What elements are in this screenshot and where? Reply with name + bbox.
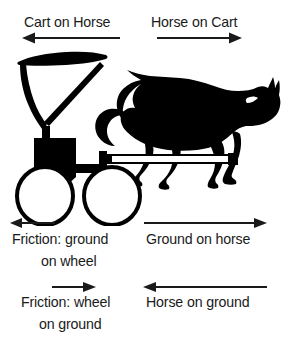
label-ground-on-horse: Ground on horse xyxy=(146,231,250,247)
force-pair-diagram: Cart on Horse Horse on Cart xyxy=(0,0,288,349)
friction-ground-on-wheel-arrow xyxy=(10,216,56,230)
ground-on-horse-arrow xyxy=(143,216,267,230)
horse-tail xyxy=(95,109,128,146)
label-friction-ground-on-wheel-line2: on wheel xyxy=(41,253,97,269)
label-friction-wheel-on-ground-line1: Friction: wheel xyxy=(21,294,110,310)
cart-shaft-cap xyxy=(228,153,238,165)
horse-on-cart-arrow xyxy=(156,31,242,45)
horse-and-cart-illustration xyxy=(0,46,288,226)
cart-front-wheel xyxy=(84,167,140,225)
cart-diagonal-strut xyxy=(44,62,104,126)
horse-body-and-head xyxy=(117,70,281,151)
horse-hindleg-front xyxy=(159,146,181,190)
horse-on-ground-arrow xyxy=(143,280,267,294)
friction-wheel-on-ground-arrow xyxy=(52,280,96,294)
cart-silhouette xyxy=(17,52,140,225)
cart-canopy-support xyxy=(20,63,47,129)
cart-post xyxy=(42,126,50,140)
horse-foreleg-rear xyxy=(208,141,225,189)
label-horse-on-ground: Horse on ground xyxy=(146,294,249,310)
label-friction-ground-on-wheel-line1: Friction: ground xyxy=(12,231,108,247)
cart-canopy xyxy=(17,52,107,66)
cart-shaft-highlight xyxy=(112,156,230,162)
label-horse-on-cart: Horse on Cart xyxy=(151,14,237,30)
label-cart-on-horse: Cart on Horse xyxy=(24,14,110,30)
cart-on-horse-arrow xyxy=(22,31,122,45)
label-friction-wheel-on-ground-line2: on ground xyxy=(39,316,102,332)
cart-shaft xyxy=(104,153,238,165)
